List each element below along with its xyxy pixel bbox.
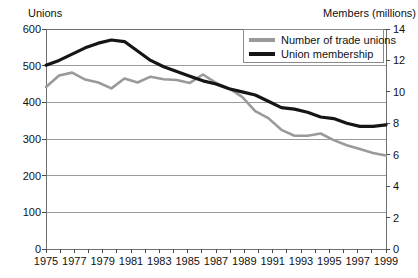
x-axis-tick-label: 1985 (175, 256, 199, 267)
right-axis-title: Members (millions) (323, 7, 416, 19)
legend-item-label: Union membership (281, 48, 373, 60)
chart-legend: Number of trade unions Union membership (243, 29, 384, 63)
x-axis-tick-label: 1989 (232, 256, 256, 267)
legend-item-union-membership: Union membership (249, 47, 378, 61)
left-axis-title: Unions (28, 7, 62, 19)
y-axis-tick-label-left: 400 (23, 97, 41, 108)
left-axis-labels: 6005004003002001000 (0, 29, 41, 249)
y-axis-tick-label-right: 10 (393, 86, 405, 97)
y-axis-tick-label-left: 0 (35, 244, 41, 255)
x-axis-tick-label: 1977 (62, 256, 86, 267)
y-axis-tick-label-right: 8 (393, 118, 399, 129)
legend-item-label: Number of trade unions (281, 34, 396, 46)
legend-line-swatch-icon (249, 38, 275, 42)
legend-line-swatch-icon (249, 52, 275, 56)
y-axis-tick-label-left: 300 (23, 134, 41, 145)
y-axis-tick-label-left: 100 (23, 207, 41, 218)
y-axis-tick-label-right: 2 (393, 212, 399, 223)
x-axis-tick-label: 1991 (260, 256, 284, 267)
left-axis-ticks (42, 29, 46, 249)
y-axis-tick-label-right: 0 (393, 244, 399, 255)
x-axis-labels: 1975197719791981198319851987198919911993… (0, 256, 418, 274)
chart-container: Unions Members (millions) 60050040030020… (0, 0, 418, 278)
x-axis-tick-label: 1995 (317, 256, 341, 267)
y-axis-tick-label-left: 200 (23, 170, 41, 181)
x-axis-tick-label: 1975 (34, 256, 58, 267)
y-axis-tick-label-left: 500 (23, 60, 41, 71)
legend-item-number-of-trade-unions: Number of trade unions (249, 33, 378, 47)
x-axis-tick-label: 1987 (204, 256, 228, 267)
y-axis-tick-label-left: 600 (23, 24, 41, 35)
x-axis-tick-label: 1993 (289, 256, 313, 267)
x-axis-ticks (46, 249, 386, 253)
y-axis-tick-label-right: 4 (393, 181, 399, 192)
x-axis-tick-label: 1979 (90, 256, 114, 267)
x-axis-tick-label: 1999 (374, 256, 398, 267)
x-axis-tick-label: 1983 (147, 256, 171, 267)
right-axis-ticks (386, 29, 390, 249)
right-axis-labels: 14121086420 (393, 29, 418, 249)
y-axis-tick-label-right: 14 (393, 24, 405, 35)
y-axis-tick-label-right: 12 (393, 55, 405, 66)
x-axis-tick-label: 1981 (119, 256, 143, 267)
y-axis-tick-label-right: 6 (393, 149, 399, 160)
x-axis-tick-label: 1997 (345, 256, 369, 267)
